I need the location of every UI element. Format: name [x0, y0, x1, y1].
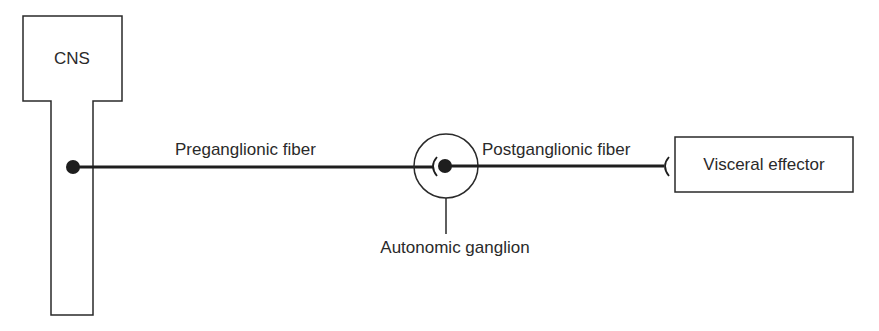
synapse-terminal-post: [665, 157, 669, 176]
visceral-effector-label: Visceral effector: [703, 155, 825, 174]
synapse-terminal-pre: [433, 157, 437, 176]
autonomic-pathway-diagram: CNS Preganglionic fiber Autonomic gangli…: [0, 0, 879, 331]
cns-label: CNS: [54, 49, 90, 68]
preganglionic-fiber-label: Preganglionic fiber: [175, 140, 316, 159]
postganglionic-fiber-label: Postganglionic fiber: [482, 140, 631, 159]
autonomic-ganglion-label: Autonomic ganglion: [380, 238, 529, 257]
preganglionic-cell-body: [66, 160, 80, 174]
